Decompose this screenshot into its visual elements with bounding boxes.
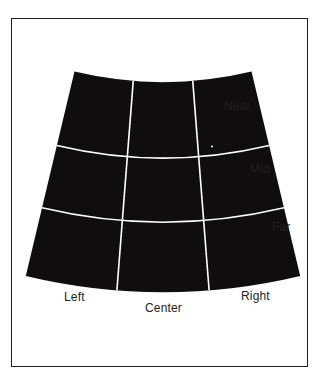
zone-label-far: Far: [272, 221, 290, 234]
zone-label-left: Left: [64, 291, 85, 304]
scan-artifact-speck: [211, 145, 213, 147]
sector-geometry-group: [26, 72, 300, 292]
zone-label-center: Center: [145, 302, 182, 315]
zone-label-right: Right: [241, 290, 270, 303]
figure-root: Near Mid Far Left Center Right: [0, 0, 322, 379]
zone-label-near: Near: [224, 100, 251, 113]
zone-grid-diagram: [0, 0, 322, 379]
sector-body-path: [26, 72, 300, 292]
zone-label-mid: Mid: [250, 163, 270, 176]
